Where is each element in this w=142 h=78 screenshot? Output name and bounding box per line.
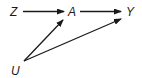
node-a: A: [68, 6, 76, 18]
node-z: Z: [10, 6, 17, 18]
node-u: U: [11, 65, 20, 77]
edge-u-to-a: [24, 20, 63, 61]
node-y: Y: [126, 6, 134, 18]
edge-u-to-y: [24, 19, 121, 61]
